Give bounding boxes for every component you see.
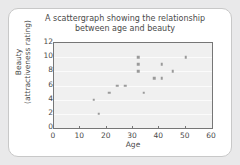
y-axis-label-line-2: (attractiveness rating) <box>23 18 32 106</box>
y-tick-label: 2 <box>39 109 53 117</box>
chart-title-line-1: A scattergraph showing the relationship <box>27 14 223 24</box>
x-tick-mark <box>185 126 186 129</box>
x-tick-label: 60 <box>201 132 221 140</box>
data-point <box>124 84 127 87</box>
scatter-chart: A scattergraph showing the relationship … <box>9 9 233 158</box>
x-tick-label: 50 <box>175 132 195 140</box>
data-point <box>161 77 164 80</box>
gridline <box>54 57 212 58</box>
x-tick-mark <box>132 126 133 129</box>
y-tick-label: 0 <box>39 123 53 131</box>
x-tick-mark <box>158 126 159 129</box>
y-tick-label: 4 <box>39 95 53 103</box>
y-tick-label: 12 <box>39 38 53 46</box>
chart-title-line-2: between age and beauty <box>27 24 223 34</box>
x-tick-mark <box>79 126 80 129</box>
x-tick-mark <box>106 126 107 129</box>
y-axis-label: Beauty (attractiveness rating) <box>14 18 32 106</box>
data-point <box>153 77 156 80</box>
gridline <box>54 114 212 115</box>
y-axis-ticks: 024681012 <box>35 42 53 129</box>
x-tick-label: 0 <box>43 132 63 140</box>
data-point <box>184 56 187 59</box>
gridline <box>54 86 212 87</box>
chart-title: A scattergraph showing the relationship … <box>27 14 223 34</box>
data-point <box>137 70 140 73</box>
data-point <box>142 91 145 94</box>
gridline <box>54 100 212 101</box>
data-point <box>171 70 174 73</box>
y-axis-label-line-1: Beauty <box>14 18 23 106</box>
data-point <box>92 98 95 101</box>
data-point <box>108 91 111 94</box>
y-tick-label: 6 <box>39 81 53 89</box>
data-point <box>137 56 140 59</box>
data-point <box>98 113 101 116</box>
x-tick-label: 20 <box>96 132 116 140</box>
y-tick-label: 8 <box>39 66 53 74</box>
data-point <box>161 63 164 66</box>
plot-area <box>53 42 213 129</box>
data-point <box>137 63 140 66</box>
gridline <box>54 71 212 72</box>
x-tick-label: 40 <box>148 132 168 140</box>
y-tick-label: 10 <box>39 52 53 60</box>
data-point <box>116 84 119 87</box>
x-tick-label: 10 <box>69 132 89 140</box>
x-axis-label: Age <box>53 140 213 149</box>
chart-card: A scattergraph showing the relationship … <box>8 8 232 157</box>
x-tick-label: 30 <box>122 132 142 140</box>
